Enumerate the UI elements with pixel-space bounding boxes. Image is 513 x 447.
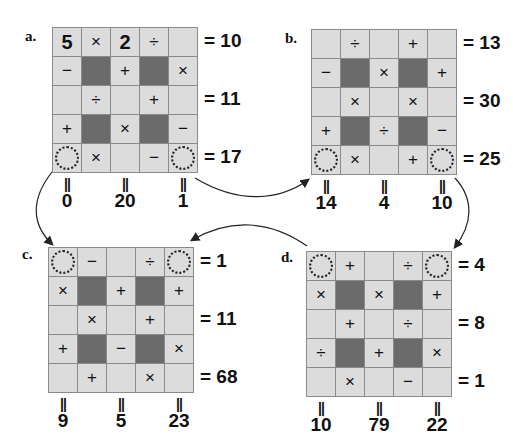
operator-cell: ÷	[394, 252, 422, 280]
circled-cell	[428, 146, 456, 174]
operator-cell: ×	[399, 88, 427, 116]
empty-cell[interactable]	[312, 88, 340, 116]
empty-cell[interactable]	[111, 86, 139, 114]
circled-cell	[165, 248, 193, 276]
circled-cell	[312, 146, 340, 174]
empty-cell[interactable]	[423, 368, 451, 396]
row-result: = 13	[463, 32, 501, 54]
empty-cell[interactable]	[49, 306, 77, 334]
operator-cell: +	[399, 30, 427, 58]
operator-cell: ×	[49, 277, 77, 305]
column-result-value: 10	[428, 193, 456, 213]
column-result: ||23	[165, 397, 193, 431]
operator-cell: +	[428, 59, 456, 87]
column-result: ||9	[49, 397, 77, 431]
operator-cell: +	[107, 277, 135, 305]
empty-cell[interactable]	[49, 364, 77, 392]
blocked-cell	[394, 281, 422, 309]
operator-cell: −	[169, 115, 197, 143]
operator-cell: ÷	[394, 310, 422, 338]
operator-cell: +	[336, 252, 364, 280]
empty-cell[interactable]	[370, 146, 398, 174]
equals-vertical: ||	[423, 401, 451, 415]
empty-cell[interactable]	[370, 88, 398, 116]
equals-vertical: ||	[165, 397, 193, 411]
empty-cell[interactable]	[307, 310, 335, 338]
operator-cell: ×	[307, 281, 335, 309]
equals-vertical: ||	[307, 401, 335, 415]
operator-cell: −	[107, 335, 135, 363]
empty-cell[interactable]	[365, 252, 393, 280]
operator-cell: ÷	[307, 339, 335, 367]
puzzle-grid: −÷×++×++−×+×	[48, 247, 194, 393]
blocked-cell	[140, 57, 168, 85]
empty-cell[interactable]	[370, 30, 398, 58]
operator-cell: +	[111, 57, 139, 85]
number-cell: 5	[53, 28, 81, 56]
empty-cell[interactable]	[165, 306, 193, 334]
blocked-cell	[78, 335, 106, 363]
empty-cell[interactable]	[53, 86, 81, 114]
operator-cell: ÷	[82, 86, 110, 114]
empty-cell[interactable]	[365, 310, 393, 338]
column-result: ||0	[53, 177, 81, 211]
puzzle-grid: +÷××++÷÷+××−	[306, 251, 452, 397]
column-result-value: 9	[49, 411, 77, 431]
circled-cell	[423, 252, 451, 280]
row-result: = 17	[204, 146, 242, 168]
arrow-a-to-b	[195, 178, 308, 197]
row-result: = 25	[463, 148, 501, 170]
operator-cell: +	[78, 364, 106, 392]
empty-cell[interactable]	[169, 28, 197, 56]
operator-cell: ×	[78, 306, 106, 334]
blocked-cell	[394, 339, 422, 367]
operator-cell: ×	[370, 59, 398, 87]
operator-cell: −	[140, 144, 168, 172]
operator-cell: ×	[165, 335, 193, 363]
equals-vertical: ||	[49, 397, 77, 411]
empty-cell[interactable]	[307, 368, 335, 396]
blocked-cell	[78, 277, 106, 305]
empty-cell[interactable]	[169, 86, 197, 114]
equals-vertical: ||	[107, 397, 135, 411]
operator-cell: +	[165, 277, 193, 305]
row-result: = 68	[200, 366, 238, 388]
blocked-cell	[336, 281, 364, 309]
operator-cell: ×	[82, 144, 110, 172]
operator-cell: ÷	[370, 117, 398, 145]
circled-cell	[169, 144, 197, 172]
blocked-cell	[341, 59, 369, 87]
operator-cell: ×	[341, 146, 369, 174]
operator-cell: ÷	[341, 30, 369, 58]
row-result: = 11	[200, 308, 236, 330]
arrow-b-to-d	[455, 178, 469, 247]
column-result-value: 5	[107, 411, 135, 431]
puzzle-grid: 5×2÷−+×÷++×−×−	[52, 27, 198, 173]
equals-vertical: ||	[312, 179, 340, 193]
operator-cell: ×	[111, 115, 139, 143]
empty-cell[interactable]	[107, 248, 135, 276]
operator-cell: ×	[136, 364, 164, 392]
blocked-cell	[336, 339, 364, 367]
empty-cell[interactable]	[312, 30, 340, 58]
operator-cell: +	[336, 310, 364, 338]
empty-cell[interactable]	[365, 368, 393, 396]
blocked-cell	[136, 277, 164, 305]
empty-cell[interactable]	[423, 310, 451, 338]
empty-cell[interactable]	[428, 30, 456, 58]
equals-vertical: ||	[169, 177, 197, 191]
column-result-value: 10	[307, 415, 335, 435]
empty-cell[interactable]	[111, 144, 139, 172]
empty-cell[interactable]	[107, 364, 135, 392]
row-result: = 10	[204, 30, 242, 52]
empty-cell[interactable]	[165, 364, 193, 392]
equals-vertical: ||	[428, 179, 456, 193]
operator-cell: ×	[423, 339, 451, 367]
operator-cell: ×	[341, 88, 369, 116]
column-result-value: 0	[53, 191, 81, 211]
blocked-cell	[136, 335, 164, 363]
empty-cell[interactable]	[107, 306, 135, 334]
column-result: ||10	[428, 179, 456, 213]
empty-cell[interactable]	[428, 88, 456, 116]
column-result-value: 4	[370, 193, 398, 213]
